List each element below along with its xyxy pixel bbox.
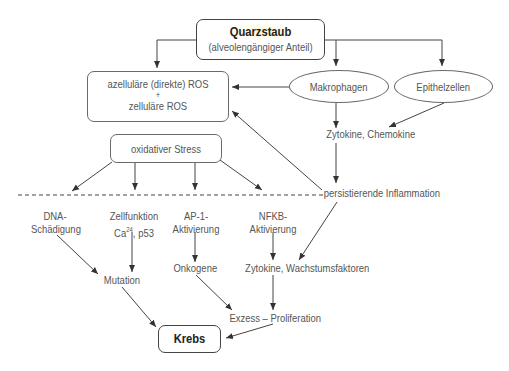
oxidative-stress-box: oxidativer Stress — [110, 134, 222, 163]
source-quarzstaub-box: Quarzstaub (alveolengängiger Anteil) — [196, 19, 325, 60]
ros-box: azelluläre (direkte) ROS + zelluläre ROS — [87, 71, 229, 122]
epithelial-node: Epithelzellen — [394, 70, 493, 103]
growth-factors-label: Zytokine, Wachstumsfaktoren — [245, 262, 357, 275]
ap1-activation-label: AP-1- Aktivierung — [172, 210, 220, 236]
mutation-label: Mutation — [103, 274, 141, 287]
source-subtitle: (alveolengängiger Anteil) — [206, 40, 315, 54]
dna-damage-label: DNA- Schädigung — [31, 210, 79, 236]
macrophages-label: Makrophagen — [310, 81, 368, 93]
outcome-krebs-box: Krebs — [158, 325, 221, 353]
proliferation-label: Exzess – Proliferation — [229, 312, 320, 325]
cell-function-label: Zellfunktion Ca24, p53 — [109, 210, 159, 240]
ros-plus: + — [98, 91, 218, 100]
nfkb-activation-label: NFKB- Aktivierung — [249, 210, 297, 236]
macrophages-node: Makrophagen — [289, 70, 389, 103]
source-title: Quarzstaub — [228, 24, 293, 39]
inflammation-label: persistierende Inflammation — [324, 187, 432, 200]
cytokines-chemokines-label: Zytokine, Chemokine — [326, 128, 403, 141]
oxidative-stress-label: oxidativer Stress — [119, 143, 214, 156]
ros-line2: zelluläre ROS — [98, 100, 218, 113]
epithelial-label: Epithelzellen — [417, 81, 471, 93]
oncogenes-label: Onkogene — [174, 262, 217, 275]
outcome-label: Krebs — [163, 331, 215, 347]
